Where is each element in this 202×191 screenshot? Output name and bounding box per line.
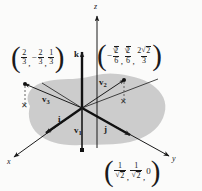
radical-by: 2: [131, 171, 141, 180]
point-label-left: ( 2 3 , − 2 3 , 1 3 ): [11, 46, 64, 69]
projection-x-left: ✕: [21, 101, 28, 110]
point-label-bottom: ( 1 2 , 1 2 , 0 ): [104, 160, 160, 183]
coord-left-x: 2 3: [21, 49, 27, 66]
radical-x: 2: [113, 46, 120, 55]
comma-4: ,: [133, 57, 135, 67]
radical-bx: 2: [115, 171, 125, 180]
radical-y: 2: [125, 46, 132, 55]
paren-close-left: ): [55, 46, 65, 69]
x-axis-label: x: [7, 158, 11, 166]
vector-label-j: j: [104, 125, 107, 134]
coord-bottom-x: 1 2: [114, 162, 126, 180]
minus-sign-left: −: [31, 53, 36, 62]
paren-open-bottom: (: [104, 160, 114, 183]
comma-5: ,: [127, 173, 129, 183]
vector-diagram-figure: ✕ ✕ z x y k i j v1 v2 v3 ( 2 3 , − 2 3 ,: [0, 0, 202, 191]
coord-left-z: 1 3: [48, 49, 54, 66]
vector-v3-sub: 3: [47, 98, 50, 105]
vector-label-i: i: [58, 115, 61, 124]
coord-right-x: 2 6: [113, 46, 120, 64]
point-marker-right: [122, 78, 126, 82]
paren-open-right: (: [97, 44, 107, 67]
coord-left-y: 2 3: [38, 49, 44, 66]
y-axis-label: y: [172, 155, 176, 163]
vector-v2-sub: 2: [104, 81, 107, 88]
projection-x-right: ✕: [120, 97, 127, 106]
point-label-right: ( − 2 6 , 2 6 , 22 3 ): [97, 44, 162, 67]
vector-j-text: j: [104, 124, 107, 134]
coord-right-y: 2 6: [125, 46, 132, 64]
comma-6: ,: [143, 173, 145, 183]
z-axis-label: z: [94, 3, 97, 11]
vector-label-v2: v2: [99, 78, 107, 89]
paren-close-bottom: ): [151, 160, 161, 183]
paren-open-left: (: [11, 46, 21, 69]
vector-i-text: i: [58, 114, 61, 124]
vector-label-k: k: [74, 50, 79, 59]
comma-2: ,: [45, 59, 47, 69]
minus-sign-right: −: [107, 51, 112, 60]
vector-label-v1: v1: [74, 126, 82, 137]
coord-bottom-y: 1 2: [130, 162, 142, 180]
point-marker-left: [23, 82, 27, 86]
vector-k-text: k: [74, 49, 79, 59]
paren-close-right: ): [152, 44, 162, 67]
vector-v1-sub: 1: [79, 129, 82, 136]
coord-right-z: 22 3: [136, 46, 152, 64]
comma-3: ,: [121, 57, 123, 67]
comma-1: ,: [28, 59, 30, 69]
radical-z: 22: [136, 46, 152, 55]
point-marker-bottom: [80, 148, 84, 152]
vector-label-v3: v3: [42, 95, 50, 106]
